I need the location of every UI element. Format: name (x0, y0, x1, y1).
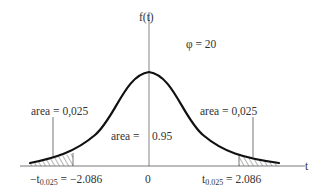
density-curve (30, 72, 279, 163)
center-area-value: 0.95 (152, 131, 172, 143)
right-critical-value-label: t0.025 = 2.086 (202, 174, 261, 186)
center-area-label: area = (111, 131, 140, 143)
left-crit-subscript: 0.025 (40, 178, 58, 187)
right-crit-subscript: 0.025 (205, 178, 223, 187)
x-axis-label: t (305, 161, 308, 173)
left-tail-area-label: area = 0,025 (31, 106, 88, 118)
t-distribution-plot (0, 0, 324, 194)
left-critical-value-label: −t0.025 = −2.086 (30, 174, 102, 186)
right-tail-area-label: area = 0,025 (200, 106, 257, 118)
left-crit-value: = −2.086 (58, 173, 103, 185)
origin-label: 0 (145, 174, 151, 186)
y-axis-label: f(t) (139, 12, 154, 24)
parameter-label: φ = 20 (186, 39, 216, 51)
right-crit-value: = 2.086 (223, 173, 261, 185)
left-tail-shading (30, 153, 73, 166)
left-crit-prefix: −t (30, 173, 40, 185)
